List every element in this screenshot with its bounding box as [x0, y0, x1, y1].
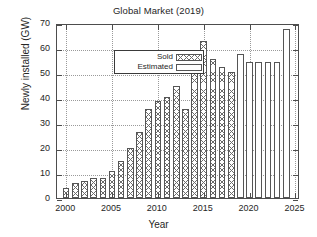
chart-title: Global Market (2019)	[0, 5, 317, 16]
y-tick-label: 10	[22, 168, 50, 178]
y-tick-label: 0	[22, 193, 50, 203]
x-tick-mark	[158, 25, 159, 30]
x-tick-mark	[295, 25, 296, 30]
y-tick-mark	[57, 75, 62, 76]
legend-label-sold: Sold	[157, 52, 173, 61]
bar-estimated-2022	[265, 62, 272, 198]
y-tick-mark	[57, 200, 62, 201]
bar-estimated-2019	[237, 54, 244, 198]
bar-sold-2014	[191, 71, 198, 199]
legend-label-estimated: Estimated	[137, 62, 173, 71]
bar-sold-2009	[145, 109, 152, 198]
bar-sold-2002	[81, 181, 88, 199]
y-tick-label: 30	[22, 118, 50, 128]
bar-sold-2012	[173, 86, 180, 199]
bar-sold-2013	[182, 109, 189, 198]
y-tick-mark	[57, 175, 62, 176]
x-tick-mark	[204, 193, 205, 198]
x-tick-mark	[112, 193, 113, 198]
bar-sold-2003	[90, 178, 97, 198]
y-tick-mark	[57, 125, 62, 126]
x-tick-mark	[204, 25, 205, 30]
bar-sold-2007	[127, 148, 134, 198]
y-tick-mark	[293, 125, 298, 126]
bar-sold-2010	[155, 101, 162, 199]
y-tick-label: 60	[22, 43, 50, 53]
y-tick-mark	[57, 25, 62, 26]
bar-estimated-2023	[274, 62, 281, 198]
legend-swatch-estimated	[176, 64, 202, 71]
bar-estimated-2020	[246, 62, 253, 198]
bar-sold-2008	[136, 132, 143, 198]
x-tick-mark	[66, 25, 67, 30]
bar-sold-2001	[72, 183, 79, 198]
x-tick-mark	[250, 193, 251, 198]
y-tick-mark	[293, 50, 298, 51]
y-tick-label: 70	[22, 18, 50, 28]
gridline-vertical	[66, 25, 67, 198]
bar-estimated-2024	[283, 29, 290, 198]
x-tick-label: 2015	[183, 203, 223, 213]
x-tick-label: 2025	[274, 203, 314, 213]
x-tick-mark	[66, 193, 67, 198]
y-tick-label: 50	[22, 68, 50, 78]
chart-figure: Global Market (2019) Newly installed (GW…	[0, 0, 317, 237]
bar-sold-2018	[228, 72, 235, 198]
x-axis-label: Year	[0, 219, 317, 230]
y-tick-mark	[57, 100, 62, 101]
y-tick-mark	[293, 75, 298, 76]
bar-sold-2006	[118, 161, 125, 199]
bar-estimated-2021	[255, 62, 262, 198]
x-tick-label: 2005	[91, 203, 131, 213]
x-tick-mark	[112, 25, 113, 30]
plot-area: Sold Estimated	[56, 24, 299, 199]
legend-item-estimated: Estimated	[115, 62, 205, 73]
x-tick-label: 2010	[137, 203, 177, 213]
x-tick-mark	[295, 193, 296, 198]
bar-sold-2017	[219, 67, 226, 198]
chart-legend: Sold Estimated	[114, 50, 204, 74]
legend-swatch-sold	[176, 54, 202, 61]
y-tick-mark	[57, 150, 62, 151]
x-tick-label: 2000	[45, 203, 85, 213]
bar-sold-2004	[100, 178, 107, 198]
bar-sold-2011	[164, 97, 171, 198]
y-tick-label: 40	[22, 93, 50, 103]
y-tick-mark	[293, 100, 298, 101]
x-tick-label: 2020	[229, 203, 269, 213]
bar-sold-2016	[210, 59, 217, 198]
y-tick-mark	[293, 200, 298, 201]
y-tick-mark	[293, 150, 298, 151]
y-tick-mark	[57, 50, 62, 51]
y-tick-label: 20	[22, 143, 50, 153]
y-tick-mark	[293, 175, 298, 176]
x-tick-mark	[158, 193, 159, 198]
x-tick-mark	[250, 25, 251, 30]
